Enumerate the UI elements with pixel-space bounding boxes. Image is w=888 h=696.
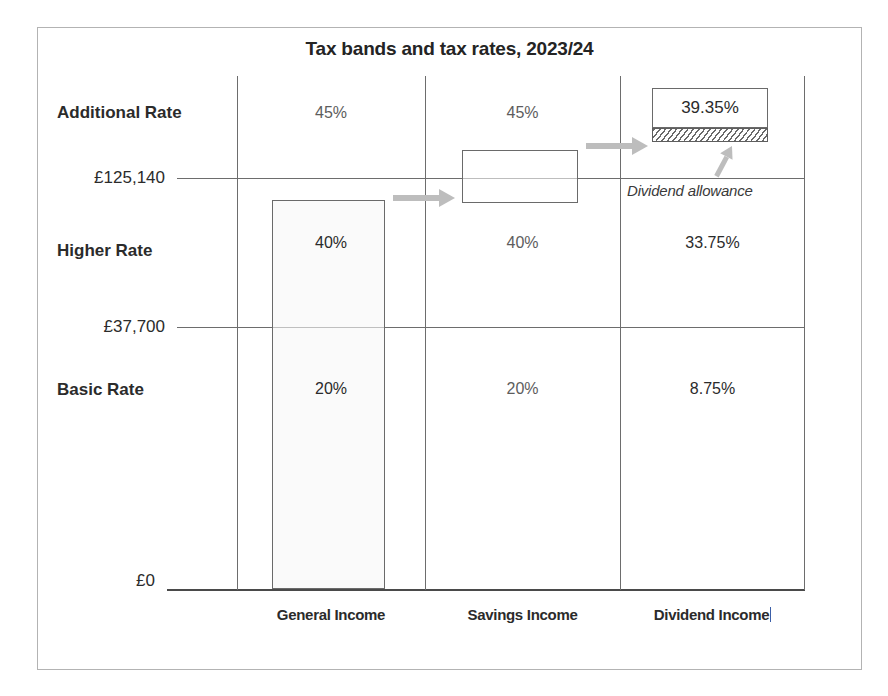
cell-dividend-basic: 8.75%	[620, 380, 805, 398]
column-caption-general-income: General Income	[237, 606, 425, 623]
axis-label-37700: £37,700	[40, 317, 165, 337]
band-label-additional-rate: Additional Rate	[57, 103, 182, 123]
band-label-higher-rate: Higher Rate	[57, 241, 152, 261]
cell-savings-basic: 20%	[425, 380, 620, 398]
dividend-allowance-hatch-band	[652, 128, 768, 142]
dividend-allowance-label: Dividend allowance	[627, 182, 753, 199]
arrow-general-to-savings	[393, 189, 455, 207]
axis-label-zero: £0	[40, 571, 155, 591]
cell-general-higher: 40%	[237, 234, 425, 252]
column-caption-dividend-income-text: Dividend Income	[654, 606, 770, 623]
cell-savings-additional: 45%	[425, 104, 620, 122]
plot-right-edge	[804, 76, 805, 590]
text-cursor-icon	[770, 607, 771, 622]
chart-canvas: Tax bands and tax rates, 2023/24 Additio…	[0, 0, 888, 696]
column-divider-1	[237, 76, 238, 590]
band-label-basic-rate: Basic Rate	[57, 380, 144, 400]
cell-dividend-higher: 33.75%	[620, 234, 805, 252]
axis-baseline	[167, 589, 805, 591]
cell-general-additional: 45%	[237, 104, 425, 122]
column-divider-2	[425, 76, 426, 590]
column-caption-savings-income: Savings Income	[425, 606, 620, 623]
arrow-savings-to-dividend	[586, 137, 648, 155]
chart-title: Tax bands and tax rates, 2023/24	[37, 38, 862, 60]
axis-label-125140: £125,140	[40, 168, 165, 188]
column-caption-dividend-income: Dividend Income	[620, 606, 805, 623]
cell-dividend-additional: 39.35%	[652, 98, 768, 118]
cell-savings-higher: 40%	[425, 234, 620, 252]
cell-general-basic: 20%	[237, 380, 425, 398]
savings-income-highlight-box	[462, 150, 578, 203]
